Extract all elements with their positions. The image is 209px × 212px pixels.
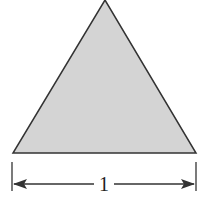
dimension-label: 1	[99, 173, 109, 195]
triangle	[13, 0, 196, 153]
diagram-canvas: 1	[0, 0, 209, 212]
